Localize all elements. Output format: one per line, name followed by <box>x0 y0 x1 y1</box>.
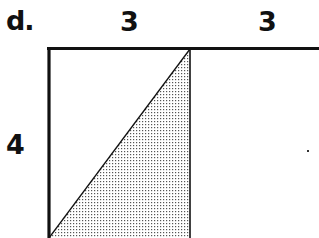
figure-drawing <box>0 0 319 238</box>
stray-dot <box>307 150 309 152</box>
